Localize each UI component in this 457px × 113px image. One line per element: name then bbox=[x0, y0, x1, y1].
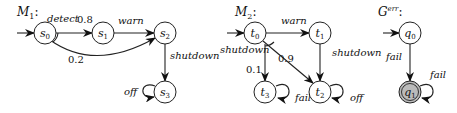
self-loop-q1 bbox=[420, 84, 433, 98]
state-q0: q0 bbox=[399, 22, 421, 44]
edge-label-off-t2: off bbox=[350, 92, 365, 103]
machine-m2: M2: warn shutdown 0.1 0.9 shutdown fail … bbox=[220, 5, 381, 103]
edge-label-fail-q1: fail bbox=[429, 69, 446, 80]
edge-label-warn-m2: warn bbox=[281, 15, 307, 26]
edge-label-fail-q0: fail bbox=[385, 51, 402, 62]
state-q1-accepting: q1 bbox=[399, 81, 421, 103]
edge-label-shutdown-t1: shutdown bbox=[332, 47, 381, 58]
state-t2: t2 bbox=[309, 81, 331, 103]
edge-label-shutdown-m2: shutdown bbox=[220, 44, 269, 55]
edge-label-warn: warn bbox=[118, 15, 144, 26]
m1-title: M1: bbox=[16, 5, 38, 21]
edge-label-detect: detect bbox=[47, 13, 80, 24]
edge-prob-0.2: 0.2 bbox=[68, 54, 84, 65]
state-t0: t0 bbox=[244, 22, 266, 44]
state-t3: t3 bbox=[254, 81, 276, 103]
state-s2: s2 bbox=[154, 22, 176, 44]
self-loop-t2 bbox=[330, 84, 343, 98]
m2-title: M2: bbox=[234, 5, 256, 21]
state-t1: t1 bbox=[309, 22, 331, 44]
edge-prob-0.8: 0.8 bbox=[77, 14, 93, 25]
edge-label-shutdown: shutdown bbox=[170, 50, 219, 61]
edge-prob-0.1: 0.1 bbox=[246, 64, 262, 75]
state-s3: s3 bbox=[154, 81, 176, 103]
edge-label-off: off bbox=[124, 86, 139, 97]
gerr-title: Gerr: bbox=[378, 5, 402, 19]
edge-prob-0.9: 0.9 bbox=[278, 53, 294, 64]
self-loop-t3 bbox=[276, 84, 289, 98]
self-loop-s3 bbox=[143, 85, 155, 97]
state-s0: s0 bbox=[34, 22, 56, 44]
machine-gerr: Gerr: fail fail q0 q1 bbox=[378, 5, 446, 103]
machine-m1: M1: detect 0.8 0.2 warn shutdown off s0 … bbox=[16, 5, 219, 103]
state-machine-diagram: M1: detect 0.8 0.2 warn shutdown off s0 … bbox=[0, 0, 457, 113]
state-s1: s1 bbox=[92, 22, 114, 44]
edge-label-fail-t3: fail bbox=[294, 92, 311, 103]
